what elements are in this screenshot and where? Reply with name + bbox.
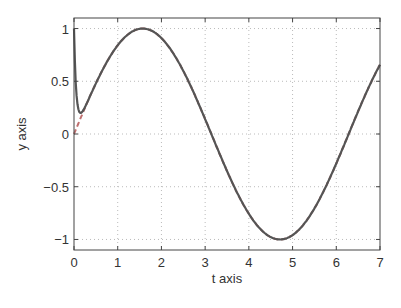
line-chart: 01234567 −1−0.500.51 t axis y axis	[0, 0, 401, 308]
grid-lines	[74, 18, 380, 250]
y-tick-label: −0.5	[43, 180, 69, 195]
y-axis-label: y axis	[14, 117, 29, 151]
y-tick-label: 0.5	[51, 74, 69, 89]
y-tick-labels: −1−0.500.51	[43, 22, 69, 248]
x-tick-label: 7	[376, 255, 383, 270]
x-tick-labels: 01234567	[70, 255, 383, 270]
x-tick-label: 0	[70, 255, 77, 270]
y-tick-label: −1	[54, 232, 69, 247]
x-tick-label: 4	[245, 255, 252, 270]
x-tick-label: 6	[333, 255, 340, 270]
x-tick-label: 5	[289, 255, 296, 270]
y-tick-label: 0	[62, 127, 69, 142]
x-tick-label: 1	[114, 255, 121, 270]
x-tick-label: 3	[202, 255, 209, 270]
y-tick-label: 1	[62, 22, 69, 37]
x-axis-label: t axis	[212, 271, 243, 286]
x-tick-label: 2	[158, 255, 165, 270]
